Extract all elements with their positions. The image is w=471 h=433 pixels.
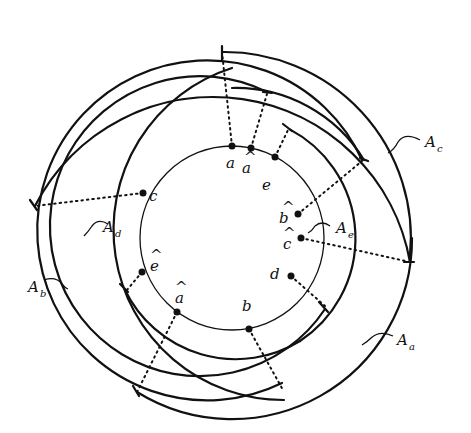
label-e: e — [262, 176, 271, 194]
point-c-hat — [298, 235, 305, 242]
label-b: b — [242, 297, 252, 315]
arc-A-b — [114, 68, 284, 400]
point-d — [288, 273, 295, 280]
label-a: a — [226, 154, 235, 172]
svg-text:a: a — [409, 341, 415, 352]
hat-c: ^ — [283, 224, 296, 242]
interval-arcs-diagram: a a ^ e b ^ c ^ d b a ^ e ^ c A c A e A … — [0, 0, 471, 433]
label-A-c: A — [423, 133, 436, 151]
label-A-a: A — [395, 331, 408, 349]
point-a-hat — [174, 309, 181, 316]
label-A-d: A — [101, 218, 114, 236]
label-d: d — [270, 265, 280, 283]
arc-bottom-inner — [120, 284, 300, 359]
point-b-hat — [295, 211, 302, 218]
label-c: c — [149, 187, 158, 205]
arc-ring-170 — [37, 60, 362, 400]
svg-text:c: c — [437, 143, 443, 154]
hat-e: ^ — [150, 246, 163, 264]
hat-a: ^ — [175, 278, 188, 296]
point-e — [272, 154, 279, 161]
label-A-e: A — [334, 219, 347, 237]
hat-a-top: ^ — [244, 148, 257, 166]
label-A-b: A — [26, 278, 39, 296]
points — [139, 143, 305, 333]
svg-text:d: d — [115, 228, 121, 239]
inner-circle — [140, 146, 324, 330]
point-c — [140, 190, 147, 197]
point-a — [229, 143, 236, 150]
point-e-hat — [139, 269, 146, 276]
point-labels: a a ^ e b ^ c ^ d b a ^ e ^ c — [149, 148, 296, 315]
svg-text:b: b — [40, 288, 46, 299]
hat-b: ^ — [282, 198, 295, 216]
svg-text:e: e — [348, 229, 354, 240]
point-b — [246, 326, 253, 333]
